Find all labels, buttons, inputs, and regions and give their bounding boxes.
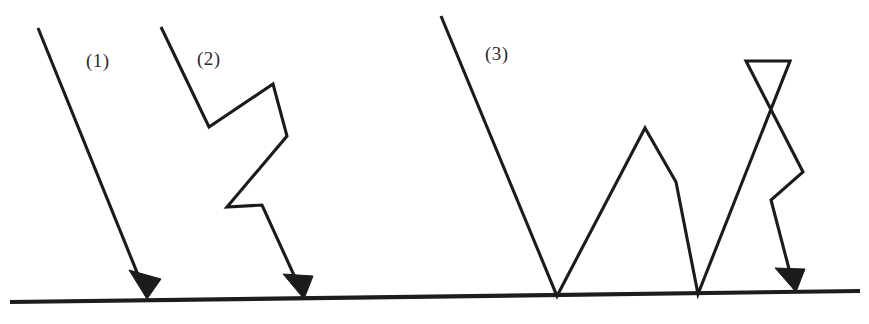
ray-3-label: (3) bbox=[485, 43, 508, 65]
physics-ray-diagram: (1) (2) (3) bbox=[0, 0, 869, 324]
ray-1-arrowhead bbox=[129, 270, 161, 299]
ray-diagram-canvas bbox=[0, 0, 869, 324]
ray-3-arrowhead bbox=[775, 268, 805, 292]
ground-surface-line bbox=[10, 291, 860, 302]
ray-2-label: (2) bbox=[197, 48, 220, 70]
ray-1-label: (1) bbox=[86, 50, 109, 72]
ray-2-arrowhead bbox=[283, 274, 313, 299]
ray-2-path bbox=[161, 27, 303, 295]
